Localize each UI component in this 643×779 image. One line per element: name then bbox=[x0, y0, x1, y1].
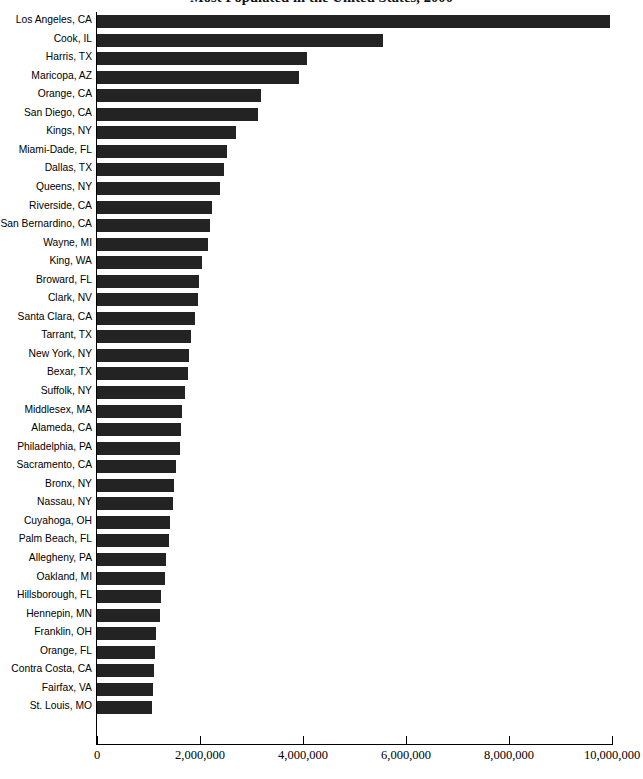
chart-row: Cook, IL bbox=[0, 34, 643, 47]
category-label: Maricopa, AZ bbox=[0, 69, 92, 82]
category-label: Cuyahoga, OH bbox=[0, 514, 92, 527]
category-label: Dallas, TX bbox=[0, 161, 92, 174]
chart-row: Broward, FL bbox=[0, 275, 643, 288]
bar bbox=[97, 460, 176, 473]
chart-row: Harris, TX bbox=[0, 52, 643, 65]
bar bbox=[97, 386, 185, 399]
chart-row: Los Angeles, CA bbox=[0, 15, 643, 28]
category-label: Los Angeles, CA bbox=[0, 13, 92, 26]
bar bbox=[97, 312, 195, 325]
x-axis-tick-label: 6,000,000 bbox=[381, 748, 431, 763]
category-label: Tarrant, TX bbox=[0, 328, 92, 341]
x-axis-tick bbox=[200, 736, 201, 745]
bar bbox=[97, 553, 166, 566]
chart-row: Clark, NV bbox=[0, 293, 643, 306]
x-axis-tick bbox=[97, 736, 98, 745]
chart-row: Wayne, MI bbox=[0, 238, 643, 251]
category-label: Bronx, NY bbox=[0, 477, 92, 490]
chart-row: King, WA bbox=[0, 256, 643, 269]
chart-row: Oakland, MI bbox=[0, 572, 643, 585]
category-label: Franklin, OH bbox=[0, 625, 92, 638]
category-label: Miami-Dade, FL bbox=[0, 143, 92, 156]
chart-row: Dallas, TX bbox=[0, 163, 643, 176]
bar bbox=[97, 572, 165, 585]
category-label: Sacramento, CA bbox=[0, 458, 92, 471]
chart-row: Cuyahoga, OH bbox=[0, 516, 643, 529]
category-label: Fairfax, VA bbox=[0, 681, 92, 694]
category-label: Cook, IL bbox=[0, 32, 92, 45]
bar bbox=[97, 590, 161, 603]
category-label: San Diego, CA bbox=[0, 106, 92, 119]
category-label: Suffolk, NY bbox=[0, 384, 92, 397]
chart-row: Allegheny, PA bbox=[0, 553, 643, 566]
x-axis-tick-label: 2,000,000 bbox=[175, 748, 225, 763]
category-label: Nassau, NY bbox=[0, 495, 92, 508]
bar bbox=[97, 701, 152, 714]
chart-row: Alameda, CA bbox=[0, 423, 643, 436]
category-label: Alameda, CA bbox=[0, 421, 92, 434]
x-axis-tick bbox=[612, 736, 613, 745]
chart-row: Santa Clara, CA bbox=[0, 312, 643, 325]
chart-row: Nassau, NY bbox=[0, 497, 643, 510]
category-label: Hillsborough, FL bbox=[0, 588, 92, 601]
chart-row: Orange, FL bbox=[0, 646, 643, 659]
category-label: Riverside, CA bbox=[0, 199, 92, 212]
bar bbox=[97, 71, 299, 84]
chart-row: Palm Beach, FL bbox=[0, 534, 643, 547]
category-label: Broward, FL bbox=[0, 273, 92, 286]
chart-row: Miami-Dade, FL bbox=[0, 145, 643, 158]
category-label: Queens, NY bbox=[0, 180, 92, 193]
x-axis-tick-label: 8,000,000 bbox=[484, 748, 534, 763]
x-axis-tick-label: 4,000,000 bbox=[278, 748, 328, 763]
chart-row: Maricopa, AZ bbox=[0, 71, 643, 84]
category-label: King, WA bbox=[0, 254, 92, 267]
bar bbox=[97, 238, 208, 251]
chart-row: San Diego, CA bbox=[0, 108, 643, 121]
category-label: New York, NY bbox=[0, 347, 92, 360]
x-axis-line bbox=[96, 744, 612, 745]
bar bbox=[97, 423, 181, 436]
chart-row: San Bernardino, CA bbox=[0, 219, 643, 232]
chart-row: Bexar, TX bbox=[0, 367, 643, 380]
x-axis-tick bbox=[406, 736, 407, 745]
bar bbox=[97, 145, 227, 158]
plot-area: Los Angeles, CACook, ILHarris, TXMaricop… bbox=[0, 0, 643, 779]
chart-row: New York, NY bbox=[0, 349, 643, 362]
bar bbox=[97, 256, 202, 269]
category-label: Bexar, TX bbox=[0, 365, 92, 378]
category-label: Clark, NV bbox=[0, 291, 92, 304]
population-bar-chart: Most Populated in the United States, 200… bbox=[0, 0, 643, 779]
category-label: Wayne, MI bbox=[0, 236, 92, 249]
bar bbox=[97, 275, 199, 288]
bar bbox=[97, 182, 220, 195]
bar bbox=[97, 367, 188, 380]
bar bbox=[97, 293, 198, 306]
category-label: Contra Costa, CA bbox=[0, 662, 92, 675]
category-label: Kings, NY bbox=[0, 124, 92, 137]
bar bbox=[97, 534, 169, 547]
bar bbox=[97, 405, 182, 418]
bar bbox=[97, 15, 610, 28]
chart-row: Orange, CA bbox=[0, 89, 643, 102]
chart-row: Tarrant, TX bbox=[0, 330, 643, 343]
category-label: Middlesex, MA bbox=[0, 403, 92, 416]
category-label: San Bernardino, CA bbox=[0, 217, 92, 230]
bar bbox=[97, 442, 180, 455]
x-axis-tick bbox=[509, 736, 510, 745]
category-label: Allegheny, PA bbox=[0, 551, 92, 564]
category-label: Orange, FL bbox=[0, 644, 92, 657]
bar bbox=[97, 664, 154, 677]
chart-row: Philadelphia, PA bbox=[0, 442, 643, 455]
chart-row: Sacramento, CA bbox=[0, 460, 643, 473]
chart-row: Hennepin, MN bbox=[0, 609, 643, 622]
category-label: St. Louis, MO bbox=[0, 699, 92, 712]
bar bbox=[97, 609, 160, 622]
bar bbox=[97, 683, 153, 696]
bar bbox=[97, 108, 258, 121]
category-label: Oakland, MI bbox=[0, 570, 92, 583]
chart-row: Kings, NY bbox=[0, 126, 643, 139]
chart-row: Queens, NY bbox=[0, 182, 643, 195]
bar bbox=[97, 34, 383, 47]
chart-row: Contra Costa, CA bbox=[0, 664, 643, 677]
chart-row: Franklin, OH bbox=[0, 627, 643, 640]
